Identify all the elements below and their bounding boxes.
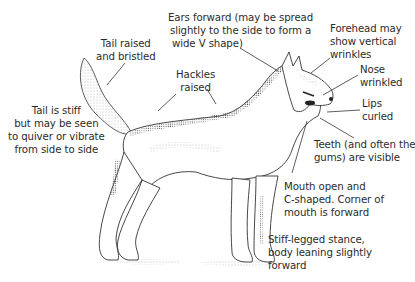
annotation-mouth: Mouth open and C-shaped. Corner of mouth… bbox=[284, 180, 384, 219]
annotation-line: wrinkled bbox=[360, 76, 402, 89]
annotation-line: Forehead may bbox=[330, 22, 402, 35]
annotation-hackles: Hackles raised bbox=[176, 68, 215, 94]
annotation-tail-stiff: Tail is stiff but may be seen to quiver … bbox=[8, 104, 105, 156]
annotation-line: wrinkles bbox=[330, 48, 402, 61]
annotation-line: gums) are visible bbox=[314, 151, 415, 164]
annotation-line: forward bbox=[268, 259, 372, 272]
annotation-line: mouth is forward bbox=[284, 206, 384, 219]
annotation-tail-raised: Tail raised and bristled bbox=[96, 37, 156, 63]
annotation-line: Stiff-legged stance, bbox=[268, 233, 372, 246]
annotation-line: Nose bbox=[360, 63, 402, 76]
annotation-forehead: Forehead may show vertical wrinkles bbox=[330, 22, 402, 61]
annotation-ears: Ears forward (may be spread slightly to … bbox=[168, 11, 313, 50]
annotation-nose: Nose wrinkled bbox=[360, 63, 402, 89]
annotation-line: Ears forward (may be spread bbox=[168, 11, 313, 24]
annotation-line: body leaning slightly bbox=[268, 246, 372, 259]
annotation-teeth: Teeth (and often the gums) are visible bbox=[314, 138, 415, 164]
annotation-line: Mouth open and bbox=[284, 180, 384, 193]
annotation-line: slightly to the side to form a bbox=[168, 24, 313, 37]
annotation-line: Tail raised bbox=[96, 37, 156, 50]
annotation-line: show vertical bbox=[330, 35, 402, 48]
ground-shadow bbox=[116, 259, 280, 266]
annotation-line: Hackles bbox=[176, 68, 215, 81]
annotation-line: and bristled bbox=[96, 50, 156, 63]
annotation-line: Teeth (and often the bbox=[314, 138, 415, 151]
annotation-line: Lips bbox=[362, 97, 393, 110]
annotation-line: C-shaped. Corner of bbox=[284, 193, 384, 206]
annotation-line: but may be seen bbox=[8, 117, 105, 130]
annotation-line: to quiver or vibrate bbox=[8, 130, 105, 143]
annotation-lips: Lips curled bbox=[362, 97, 393, 123]
annotation-stance: Stiff-legged stance, body leaning slight… bbox=[268, 233, 372, 272]
annotation-line: Tail is stiff bbox=[8, 104, 105, 117]
annotation-top-cut: ... (cut off at top edge) bbox=[150, 0, 263, 4]
annotation-line: curled bbox=[362, 110, 393, 123]
dog-body-language-diagram: ... (cut off at top edge) Ears forward (… bbox=[0, 0, 415, 282]
annotation-line: wide V shape) bbox=[168, 37, 313, 50]
annotation-line: from side to side bbox=[8, 143, 105, 156]
annotation-line: raised bbox=[176, 81, 215, 94]
